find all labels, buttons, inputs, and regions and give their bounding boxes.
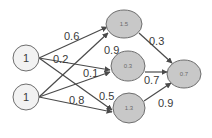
neural-network-diagram: 1 1 1.5 0.3 1.3 0.7 0.6 0.2 0.5 0.9 0.1 … bbox=[0, 0, 212, 138]
weight-i2-h3: 0.8 bbox=[69, 94, 84, 106]
weight-h2-o1: 0.7 bbox=[144, 74, 159, 86]
output-node: 0.7 bbox=[167, 60, 201, 88]
hidden-node-3: 1.3 bbox=[113, 93, 145, 123]
hidden-node-2-label: 0.3 bbox=[124, 63, 133, 69]
hidden-node-1-label: 1.5 bbox=[120, 21, 129, 27]
weight-i2-h2: 0.1 bbox=[83, 67, 98, 79]
weight-h3-o1: 0.9 bbox=[158, 97, 173, 109]
input-node-2: 1 bbox=[13, 84, 39, 110]
weight-h1-o1: 0.3 bbox=[149, 35, 164, 47]
input-node-2-label: 1 bbox=[23, 91, 29, 103]
hidden-node-3-label: 1.3 bbox=[125, 105, 134, 111]
input-node-1: 1 bbox=[13, 45, 39, 71]
hidden-node-1: 1.5 bbox=[106, 10, 142, 38]
weight-i1-h2: 0.2 bbox=[53, 53, 68, 65]
weight-i1-h3: 0.5 bbox=[99, 90, 114, 102]
weight-i2-h1: 0.9 bbox=[104, 44, 119, 56]
output-node-label: 0.7 bbox=[180, 71, 189, 77]
weight-i1-h1: 0.6 bbox=[64, 30, 79, 42]
input-node-1-label: 1 bbox=[23, 52, 29, 64]
